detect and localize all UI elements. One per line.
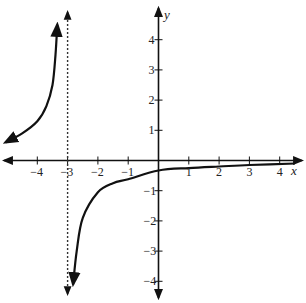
x-tick-label: −2 — [91, 165, 104, 179]
left-branch-curve — [6, 25, 58, 143]
right-branch-curve — [73, 164, 295, 285]
x-tick-label: 2 — [216, 165, 222, 179]
y-tick-label: 3 — [149, 63, 155, 77]
x-tick-label: 1 — [186, 165, 192, 179]
function-plot: −4−3−2−112344321−1−2−3−4 x y — [0, 0, 306, 303]
y-tick-label: 1 — [149, 123, 155, 137]
x-tick-label: −3 — [61, 165, 74, 179]
graph-canvas: −4−3−2−112344321−1−2−3−4 x y — [0, 0, 306, 303]
x-tick-label: −4 — [30, 165, 43, 179]
y-tick-label: −3 — [144, 244, 157, 258]
x-tick-label: 3 — [246, 165, 252, 179]
x-tick-label: −1 — [121, 165, 134, 179]
y-tick-label: −4 — [144, 274, 157, 288]
x-axis-label: x — [290, 163, 297, 178]
y-tick-label: 2 — [149, 93, 155, 107]
x-tick-label: 4 — [277, 165, 283, 179]
y-tick-label: 4 — [149, 33, 155, 47]
y-tick-label: −2 — [144, 214, 157, 228]
y-tick-label: −1 — [144, 184, 157, 198]
y-axis-label: y — [162, 7, 170, 22]
